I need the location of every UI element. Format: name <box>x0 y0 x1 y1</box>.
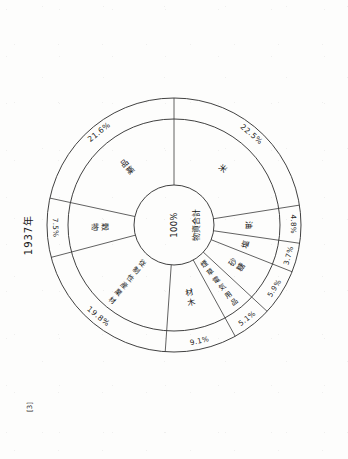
slice-name-label: 材木 <box>184 287 196 308</box>
slice-name-char: 穀 <box>100 222 110 230</box>
slice-percent-label: 9.1% <box>189 334 210 347</box>
slice-percent-label: 5.1% <box>236 309 257 328</box>
slice-percent-label: 3.7% <box>282 245 296 266</box>
center-total-name: 物資合計 <box>191 209 201 241</box>
slice-name-label: 塩 <box>239 239 251 249</box>
year-caption: 1937年 <box>0 224 68 246</box>
slice-divider <box>211 240 292 272</box>
slice-divider <box>214 231 300 244</box>
slice-name-label: 米 <box>216 162 229 175</box>
slice-name-char: 油 <box>244 220 254 228</box>
slice-divider <box>50 198 135 216</box>
slice-name-label: 薬品 <box>118 157 136 177</box>
center-total-percent: 100% <box>169 212 179 238</box>
slice-divider <box>165 265 171 352</box>
slice-name-char: 木 <box>186 296 196 307</box>
slice-name-char: 米 <box>216 162 229 175</box>
slice-divider <box>214 205 300 219</box>
slice-name-char: 品 <box>229 297 239 308</box>
slice-name-char: 物 <box>90 223 100 231</box>
slice-name-label: 穀物 <box>90 222 110 230</box>
slice-name-label: 砂糖 <box>226 256 247 273</box>
slice-percent-label: 22.5% <box>239 122 265 146</box>
center-hub-labels: 100% 物資合計 <box>169 209 201 241</box>
slice-name-label: 油 <box>244 220 254 228</box>
slice-percent-label: 5.9% <box>265 278 283 299</box>
slice-percent-label: 21.6% <box>86 120 112 144</box>
slice-name-char: 塩 <box>239 239 251 249</box>
pie-chart-figure: 22.5%4.8%3.7%5.9%5.1%9.1%19.8%7.5%21.6% … <box>0 0 348 459</box>
figure-number-mark: [3] <box>26 402 34 412</box>
slice-name-label: 従制性産業材 <box>106 257 148 305</box>
slice-percent-label: 4.8% <box>289 214 298 234</box>
